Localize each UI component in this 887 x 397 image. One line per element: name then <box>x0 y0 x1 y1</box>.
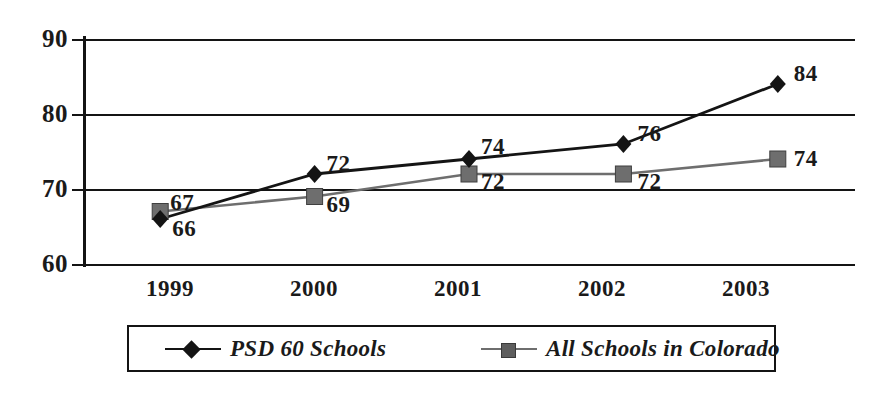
x-axis-label-2001: 2001 <box>413 276 503 302</box>
legend-entry-psd-60-schools: PSD 60 Schools <box>165 333 386 365</box>
x-axis-label-2002: 2002 <box>557 276 647 302</box>
data-label-colorado-1999: 67 <box>170 191 194 214</box>
diamond-marker-icon <box>165 340 221 358</box>
square-marker-icon <box>481 340 537 358</box>
y-axis-label-70: 70 <box>0 176 68 202</box>
gridline-80 <box>83 114 855 116</box>
data-label-psd-1999: 66 <box>172 217 196 240</box>
gridline-90 <box>83 39 855 41</box>
data-label-psd-2000: 72 <box>327 152 351 175</box>
y-tick-90 <box>72 39 83 41</box>
gridline-70 <box>83 189 855 191</box>
data-label-colorado-2003: 74 <box>794 147 818 170</box>
y-tick-60 <box>72 264 83 266</box>
line-chart: 90 80 70 60 1999 2000 2001 2002 2003 667… <box>0 0 887 397</box>
y-axis-label-90: 90 <box>0 26 68 52</box>
y-tick-70 <box>72 189 83 191</box>
x-axis-label-2003: 2003 <box>701 276 791 302</box>
data-label-psd-2002: 76 <box>637 122 661 145</box>
data-label-psd-2003: 84 <box>794 62 818 85</box>
data-label-psd-2001: 74 <box>481 135 505 158</box>
chart-legend: PSD 60 Schools All Schools in Colorado <box>127 325 776 372</box>
gridline-60 <box>83 264 855 266</box>
legend-entry-all-schools-colorado: All Schools in Colorado <box>481 333 780 365</box>
plot-area <box>83 39 855 264</box>
y-tick-80 <box>72 114 83 116</box>
y-axis-label-80-text: 80 <box>10 101 68 126</box>
data-label-colorado-2000: 69 <box>327 193 351 216</box>
y-axis-label-80: 80 <box>0 101 68 127</box>
data-label-colorado-2002: 72 <box>637 170 661 193</box>
y-axis-label-60: 60 <box>0 251 68 277</box>
y-axis-label-90-text: 90 <box>10 26 68 51</box>
legend-label-all-schools-colorado: All Schools in Colorado <box>546 336 780 362</box>
data-label-colorado-2001: 72 <box>481 170 505 193</box>
x-axis-label-2000: 2000 <box>269 276 359 302</box>
y-axis-label-60-text: 60 <box>10 251 68 276</box>
y-axis-label-70-text: 70 <box>10 176 68 201</box>
legend-label-psd-60-schools: PSD 60 Schools <box>230 336 386 362</box>
x-axis-label-1999: 1999 <box>125 276 215 302</box>
